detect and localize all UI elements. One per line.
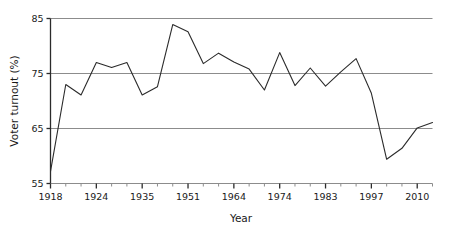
x-tick-marks-group <box>51 184 433 189</box>
turnout-line <box>51 25 433 172</box>
x-tick-label-1918: 1918 <box>38 191 62 202</box>
y-tick-label-65: 65 <box>31 123 43 134</box>
x-tick-label-1924: 1924 <box>84 191 108 202</box>
voter-turnout-line-chart: 55657585 1918192419351951196419741983199… <box>0 0 449 234</box>
x-tick-label-1951: 1951 <box>176 191 200 202</box>
y-tick-label-85: 85 <box>31 13 43 24</box>
data-series-group <box>51 25 433 172</box>
y-tick-label-55: 55 <box>31 178 43 189</box>
y-axis-title: Voter turnout (%) <box>8 55 20 146</box>
x-axis-title: Year <box>229 212 253 224</box>
x-tick-label-1983: 1983 <box>313 191 337 202</box>
x-tick-labels-group: 191819241935195119641974198319972010 <box>38 191 429 202</box>
x-tick-label-2010: 2010 <box>405 191 429 202</box>
x-tick-label-1997: 1997 <box>359 191 383 202</box>
y-tick-labels-group: 55657585 <box>31 13 50 189</box>
y-tick-label-75: 75 <box>31 68 43 79</box>
x-tick-label-1974: 1974 <box>268 191 292 202</box>
x-tick-label-1935: 1935 <box>130 191 154 202</box>
x-tick-label-1964: 1964 <box>222 191 246 202</box>
chart-container: 55657585 1918192419351951196419741983199… <box>0 0 449 234</box>
